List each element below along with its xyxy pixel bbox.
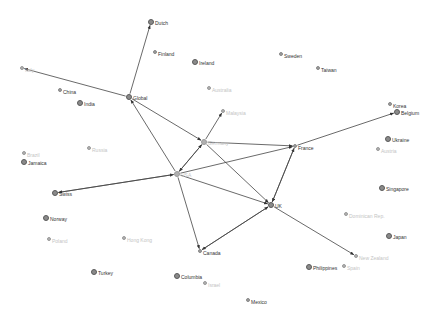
graph-node-spain[interactable]: Spain — [342, 264, 360, 271]
node-label: Dutch — [155, 21, 168, 26]
node-label: USA — [181, 173, 191, 178]
node-circle-icon[interactable] — [174, 273, 180, 279]
graph-node-usa[interactable]: USA — [174, 171, 191, 178]
node-circle-icon[interactable] — [58, 88, 62, 92]
graph-node-ireland[interactable]: Ireland — [192, 59, 214, 66]
node-circle-icon[interactable] — [385, 136, 391, 142]
node-circle-icon[interactable] — [87, 146, 91, 150]
node-label: Norway — [50, 217, 67, 222]
graph-node-dominican[interactable]: Dominican Rep. — [344, 212, 385, 219]
graph-node-belgium[interactable]: Belgium — [394, 109, 419, 116]
node-circle-icon[interactable] — [279, 52, 283, 56]
graph-node-russia[interactable]: Russia — [87, 146, 107, 153]
node-circle-icon[interactable] — [174, 171, 180, 177]
graph-node-japan[interactable]: Japan — [386, 233, 407, 240]
graph-node-singapore[interactable]: Singapore — [379, 185, 409, 192]
node-circle-icon[interactable] — [192, 59, 198, 65]
graph-node-philippines[interactable]: Philippines — [306, 264, 337, 271]
node-circle-icon[interactable] — [306, 264, 312, 270]
graph-node-brazil[interactable]: Brazil — [22, 151, 40, 158]
graph-node-uk[interactable]: UK — [268, 202, 282, 209]
node-label: France — [298, 146, 314, 151]
graph-node-hongkong[interactable]: Hong Kong — [122, 236, 152, 243]
graph-node-israel[interactable]: Israel — [203, 281, 220, 288]
node-label: Finland — [158, 52, 174, 57]
graph-node-swiss[interactable]: Swiss — [52, 190, 72, 197]
node-circle-icon[interactable] — [207, 86, 211, 90]
node-circle-icon[interactable] — [388, 102, 392, 106]
node-circle-icon[interactable] — [376, 147, 380, 151]
node-label: Columbia — [181, 275, 202, 280]
graph-node-canada[interactable]: Canada — [198, 249, 221, 256]
node-circle-icon[interactable] — [203, 281, 207, 285]
graph-node-finland[interactable]: Finland — [153, 50, 174, 57]
node-label: Turkey — [98, 271, 113, 276]
node-circle-icon[interactable] — [293, 144, 297, 148]
node-circle-icon[interactable] — [198, 249, 202, 253]
node-label: UK — [275, 204, 282, 209]
node-circle-icon[interactable] — [77, 100, 83, 106]
graph-node-sweden[interactable]: Sweden — [279, 52, 302, 59]
node-circle-icon[interactable] — [47, 237, 51, 241]
graph-node-dutch[interactable]: Dutch — [148, 19, 168, 26]
graph-node-australia[interactable]: Australia — [207, 86, 231, 93]
graph-node-india[interactable]: India — [77, 100, 95, 107]
graph-node-mexico[interactable]: Mexico — [246, 298, 267, 305]
graph-node-korea[interactable]: Korea — [388, 102, 406, 109]
graph-node-jamaica[interactable]: Jamaica — [21, 159, 47, 166]
graph-node-italy[interactable]: Italy — [20, 66, 34, 73]
node-label: Russia — [92, 148, 107, 153]
node-circle-icon[interactable] — [148, 19, 154, 25]
node-label: Canada — [203, 251, 221, 256]
node-label: Italy — [25, 68, 34, 73]
node-circle-icon[interactable] — [22, 151, 26, 155]
node-circle-icon[interactable] — [246, 298, 250, 302]
graph-node-malaysia[interactable]: Malaysia — [221, 109, 246, 116]
node-label: Philippines — [313, 266, 337, 271]
graph-node-france[interactable]: France — [293, 144, 314, 151]
node-circle-icon[interactable] — [344, 212, 348, 216]
node-circle-icon[interactable] — [52, 190, 58, 196]
node-circle-icon[interactable] — [379, 185, 385, 191]
node-label: Mexico — [251, 300, 267, 305]
node-circle-icon[interactable] — [386, 233, 392, 239]
node-label: Belgium — [401, 111, 419, 116]
graph-node-columbia[interactable]: Columbia — [174, 273, 202, 280]
node-circle-icon[interactable] — [91, 269, 97, 275]
node-label: Ireland — [199, 61, 214, 66]
graph-node-china[interactable]: China — [58, 88, 76, 95]
node-circle-icon[interactable] — [122, 236, 126, 240]
node-circle-icon[interactable] — [21, 159, 27, 165]
node-label: Sweden — [284, 54, 302, 59]
node-circle-icon[interactable] — [268, 202, 274, 208]
node-circle-icon[interactable] — [221, 109, 225, 113]
node-circle-icon[interactable] — [394, 109, 400, 115]
node-circle-icon[interactable] — [354, 254, 358, 258]
graph-node-ukraine[interactable]: Ukraine — [385, 136, 409, 143]
graph-node-austria[interactable]: Austria — [376, 147, 397, 154]
node-circle-icon[interactable] — [316, 66, 320, 70]
graph-node-turkey[interactable]: Turkey — [91, 269, 113, 276]
node-label: Israel — [208, 283, 220, 288]
node-circle-icon[interactable] — [201, 139, 207, 145]
node-label: Global — [133, 96, 147, 101]
node-label: Germany — [208, 141, 229, 146]
node-circle-icon[interactable] — [20, 66, 24, 70]
node-label: Hong Kong — [127, 238, 152, 243]
node-label: Swiss — [59, 192, 72, 197]
node-label: Spain — [347, 266, 360, 271]
node-circle-icon[interactable] — [342, 264, 346, 268]
graph-node-newzealand[interactable]: New Zealand — [354, 254, 388, 261]
node-label: India — [84, 102, 95, 107]
node-circle-icon[interactable] — [153, 50, 157, 54]
graph-node-global[interactable]: Global — [126, 94, 147, 101]
node-label: Australia — [212, 88, 231, 93]
node-circle-icon[interactable] — [43, 215, 49, 221]
graph-node-germany[interactable]: Germany — [201, 139, 229, 146]
node-label: Dominican Rep. — [349, 214, 385, 219]
graph-node-poland[interactable]: Poland — [47, 237, 68, 244]
graph-node-norway[interactable]: Norway — [43, 215, 67, 222]
graph-node-taiwan[interactable]: Taiwan — [316, 66, 337, 73]
node-label: Singapore — [386, 187, 409, 192]
node-circle-icon[interactable] — [126, 94, 132, 100]
